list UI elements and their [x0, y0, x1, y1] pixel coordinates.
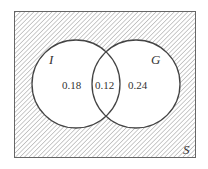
- intersection-value: 0.12: [95, 79, 114, 91]
- universe-label: S: [183, 142, 190, 157]
- set-g-only-value: 0.24: [128, 79, 148, 91]
- set-i-label: I: [48, 52, 54, 67]
- venn-diagram: I G 0.18 0.12 0.24 S: [0, 0, 208, 169]
- set-g-label: G: [151, 52, 161, 67]
- set-i-only-value: 0.18: [62, 79, 82, 91]
